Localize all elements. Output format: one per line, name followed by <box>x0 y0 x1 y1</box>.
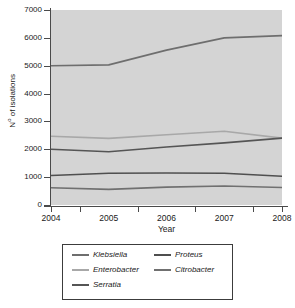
y-tick <box>44 38 51 39</box>
series-line-enterobacter <box>51 131 282 138</box>
legend-label: Serratia <box>93 280 121 289</box>
legend-row: KlebsiellaProteus <box>63 250 232 265</box>
x-axis-title: Year <box>51 225 282 234</box>
series-lines <box>51 10 282 205</box>
line-chart-figure: 01000200030004000500060007000 No of isol… <box>0 0 295 308</box>
series-line-proteus <box>51 173 282 176</box>
x-tick-label: 2004 <box>28 214 74 223</box>
y-tick-label: 7000 <box>0 6 42 14</box>
legend-item-serratia[interactable]: Serratia <box>72 280 121 289</box>
y-tick-label: 6000 <box>0 34 42 42</box>
x-tick <box>195 206 196 212</box>
series-line-citrobacter <box>51 186 282 189</box>
chart-legend: KlebsiellaProteusEnterobacterCitrobacter… <box>62 244 233 300</box>
y-tick <box>44 177 51 178</box>
legend-row: Serratia <box>63 280 232 295</box>
y-tick <box>44 205 51 206</box>
y-tick <box>44 94 51 95</box>
y-tick-label: 0 <box>0 201 42 209</box>
y-tick <box>44 121 51 122</box>
x-tick <box>51 206 52 212</box>
legend-label: Citrobacter <box>175 265 214 274</box>
x-tick <box>138 206 139 212</box>
legend-label: Klebsiella <box>93 250 127 259</box>
x-tick <box>282 206 283 212</box>
plot-region: 01000200030004000500060007000 No of isol… <box>0 0 295 238</box>
y-axis-title: No of isolations <box>5 61 17 141</box>
series-line-serratia <box>51 138 282 152</box>
legend-item-proteus[interactable]: Proteus <box>154 250 203 259</box>
x-tick-label: 2005 <box>86 214 132 223</box>
x-tick-label: 2006 <box>144 214 190 223</box>
legend-swatch-icon <box>154 254 171 256</box>
y-tick-label: 2000 <box>0 145 42 153</box>
x-tick <box>80 206 81 212</box>
legend-label: Enterobacter <box>93 265 139 274</box>
legend-label: Proteus <box>175 250 203 259</box>
y-tick <box>44 149 51 150</box>
x-tick <box>253 206 254 212</box>
x-tick-label: 2008 <box>259 214 295 223</box>
legend-swatch-icon <box>72 254 89 256</box>
legend-swatch-icon <box>154 269 171 271</box>
legend-swatch-icon <box>72 269 89 271</box>
legend-item-enterobacter[interactable]: Enterobacter <box>72 265 139 274</box>
legend-swatch-icon <box>72 284 89 286</box>
y-tick-label: 1000 <box>0 173 42 181</box>
y-tick <box>44 10 51 11</box>
series-line-klebsiella <box>51 36 282 66</box>
x-tick-label: 2007 <box>201 214 247 223</box>
legend-item-klebsiella[interactable]: Klebsiella <box>72 250 127 259</box>
legend-item-citrobacter[interactable]: Citrobacter <box>154 265 214 274</box>
y-tick <box>44 66 51 67</box>
legend-row: EnterobacterCitrobacter <box>63 265 232 280</box>
